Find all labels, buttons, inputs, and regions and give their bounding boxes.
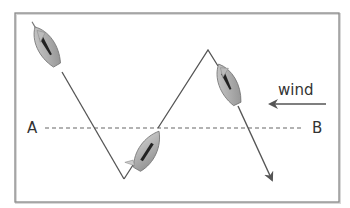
boat-icon — [24, 17, 64, 69]
diagram-canvas — [0, 0, 350, 208]
boat-icon — [211, 60, 246, 107]
frame-shadow — [16, 14, 340, 203]
point-a-label: A — [27, 121, 37, 136]
boat-icon — [125, 124, 167, 174]
frame — [15, 13, 339, 202]
tacking-diagram: A B wind — [0, 0, 350, 208]
course-path — [62, 50, 272, 180]
wind-label: wind — [278, 83, 313, 98]
point-b-label: B — [312, 121, 322, 136]
